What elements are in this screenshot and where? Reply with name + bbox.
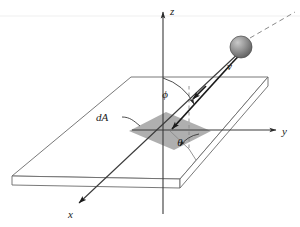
diagram-canvas: z y x ϕ θ dA v [0, 0, 300, 227]
area-element-label: dA [96, 111, 109, 123]
velocity-label: v [227, 60, 232, 72]
molecule-sphere [230, 36, 252, 58]
theta-angle-label: θ [177, 136, 183, 148]
z-axis-label: z [169, 5, 175, 17]
phi-angle-label: ϕ [162, 88, 168, 100]
y-axis-label: y [281, 125, 287, 137]
physics-diagram-figure: z y x ϕ θ dA v [0, 0, 300, 227]
x-axis-label: x [67, 208, 73, 220]
